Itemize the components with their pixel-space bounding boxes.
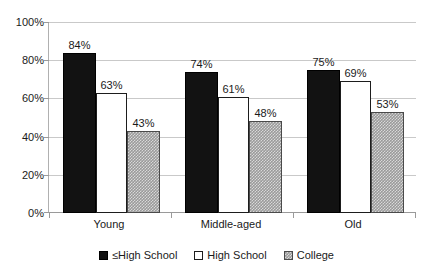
y-tick-label-40: 40%	[2, 132, 44, 143]
bar-young-college[interactable]: 43%	[127, 131, 160, 213]
y-tick-label-0: 0%	[2, 208, 44, 219]
bar-slot-young-col: 43%	[127, 22, 160, 213]
bar-value-middle-low: 74%	[190, 59, 212, 70]
y-tick-label-60: 60%	[2, 93, 44, 104]
bar-middle-aged-college[interactable]: 48%	[249, 121, 282, 213]
grouped-bar-chart: 100% 80% 60% 40% 20% 0% 84%	[0, 0, 433, 277]
y-tick-label-100: 100%	[2, 17, 44, 28]
x-axis-label-middle-aged: Middle-aged	[170, 218, 292, 230]
bar-old-college[interactable]: 53%	[371, 112, 404, 213]
plot-area: 84% 63% 43% 74	[48, 22, 415, 213]
bar-group-old: 75% 69% 53%	[293, 22, 415, 213]
bar-value-middle-col: 48%	[254, 108, 276, 119]
x-axis-label-young: Young	[48, 218, 170, 230]
y-tick-label-20: 20%	[2, 170, 44, 181]
y-axis: 100% 80% 60% 40% 20% 0%	[0, 22, 44, 213]
bar-group-young: 84% 63% 43%	[49, 22, 171, 213]
bar-old-less-high-school[interactable]: 75%	[307, 70, 340, 213]
bar-value-old-hs: 69%	[344, 68, 366, 79]
legend-item-less-high-school[interactable]: ≤High School	[99, 250, 177, 261]
bar-slot-middle-col: 48%	[249, 22, 282, 213]
legend-label-high-school: High School	[207, 250, 266, 261]
bar-value-young-col: 43%	[132, 118, 154, 129]
bar-value-young-hs: 63%	[100, 80, 122, 91]
legend-swatch-white-icon	[194, 251, 203, 260]
bar-slot-middle-low: 74%	[185, 22, 218, 213]
bar-slot-old-low: 75%	[307, 22, 340, 213]
bar-group-middle-aged: 74% 61% 48%	[171, 22, 293, 213]
legend-swatch-gray-icon	[284, 251, 293, 260]
legend-item-college[interactable]: College	[284, 250, 334, 261]
legend-swatch-black-icon	[99, 251, 108, 260]
bar-middle-aged-high-school[interactable]: 61%	[218, 97, 249, 214]
bar-slot-old-col: 53%	[371, 22, 404, 213]
bar-slot-young-low: 84%	[63, 22, 96, 213]
bar-value-young-low: 84%	[68, 40, 90, 51]
bar-value-old-col: 53%	[376, 99, 398, 110]
bar-value-middle-hs: 61%	[222, 84, 244, 95]
bar-middle-aged-less-high-school[interactable]: 74%	[185, 72, 218, 213]
bar-slot-middle-hs: 61%	[218, 22, 249, 213]
bar-slot-young-hs: 63%	[96, 22, 127, 213]
x-axis-label-old: Old	[292, 218, 414, 230]
legend-label-less-high-school: ≤High School	[112, 250, 177, 261]
bar-young-less-high-school[interactable]: 84%	[63, 53, 96, 213]
y-tick-label-80: 80%	[2, 55, 44, 66]
legend: ≤High School High School College	[0, 250, 433, 261]
bar-slot-old-hs: 69%	[340, 22, 371, 213]
bar-young-high-school[interactable]: 63%	[96, 93, 127, 213]
bar-value-old-low: 75%	[312, 57, 334, 68]
x-tick-3	[415, 213, 416, 218]
legend-label-college: College	[297, 250, 334, 261]
bar-old-high-school[interactable]: 69%	[340, 81, 371, 213]
legend-item-high-school[interactable]: High School	[194, 250, 266, 261]
